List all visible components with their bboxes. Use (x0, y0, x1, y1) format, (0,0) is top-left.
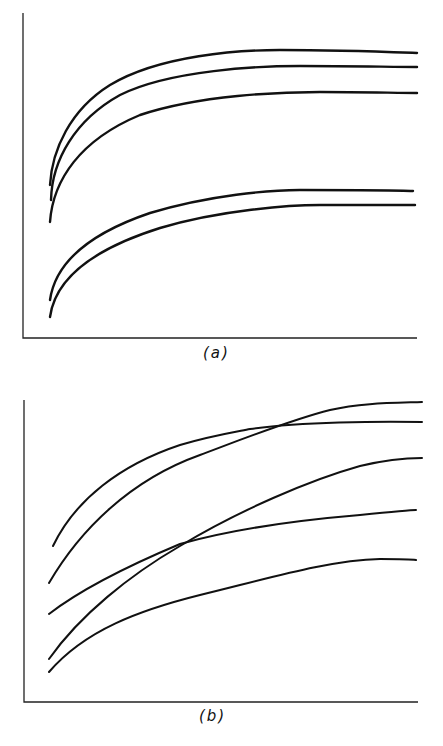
panel-a-caption: (a) (203, 344, 230, 362)
curve-line (50, 190, 413, 300)
panel-b-caption: (b) (199, 707, 226, 725)
curve-line (49, 402, 422, 583)
axes (23, 13, 417, 338)
curve-line (50, 50, 417, 185)
panel-b-plot (24, 400, 422, 702)
panel-a-plot (23, 13, 417, 338)
axes (24, 400, 418, 702)
curve-line (50, 92, 417, 222)
figure-canvas (0, 0, 443, 746)
curve-line (50, 205, 415, 317)
curve-line (49, 559, 416, 672)
